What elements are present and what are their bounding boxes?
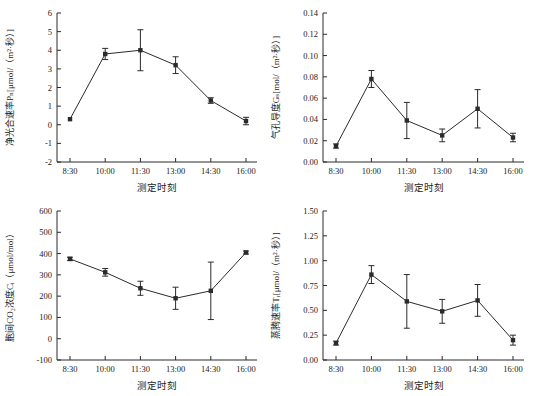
svg-text:16:00: 16:00 bbox=[236, 166, 255, 176]
svg-text:测定时刻: 测定时刻 bbox=[404, 182, 444, 193]
chart-stomatal-conductance: 0.000.020.040.060.080.100.120.148:3010:0… bbox=[266, 0, 533, 198]
svg-text:14:30: 14:30 bbox=[468, 364, 487, 374]
svg-text:10:00: 10:00 bbox=[362, 166, 381, 176]
svg-text:净光合速率Pₙ[μmol/（m²·秒）]: 净光合速率Pₙ[μmol/（m²·秒）] bbox=[4, 29, 15, 146]
svg-text:1.50: 1.50 bbox=[303, 206, 318, 216]
svg-text:2: 2 bbox=[48, 83, 52, 93]
svg-text:0.12: 0.12 bbox=[303, 29, 318, 39]
svg-text:11:30: 11:30 bbox=[131, 364, 150, 374]
svg-text:5: 5 bbox=[48, 27, 52, 37]
chart-transpiration-rate: 0.000.250.500.751.001.251.508:3010:0011:… bbox=[266, 198, 533, 396]
chart-net-photosynthetic-rate: -2-101234568:3010:0011:3013:0014:3016:00… bbox=[0, 0, 266, 198]
svg-text:-1: -1 bbox=[45, 138, 52, 148]
svg-text:0: 0 bbox=[48, 120, 52, 130]
svg-text:8:30: 8:30 bbox=[62, 364, 77, 374]
svg-text:1: 1 bbox=[48, 101, 52, 111]
svg-text:16:00: 16:00 bbox=[503, 166, 522, 176]
svg-text:-100: -100 bbox=[36, 355, 52, 365]
chart-cell-bottom-right: 0.000.250.500.751.001.251.508:3010:0011:… bbox=[266, 198, 533, 396]
svg-text:11:30: 11:30 bbox=[131, 166, 150, 176]
svg-text:0.02: 0.02 bbox=[303, 136, 318, 146]
svg-text:8:30: 8:30 bbox=[62, 166, 77, 176]
svg-text:0.14: 0.14 bbox=[303, 8, 319, 18]
svg-text:300: 300 bbox=[39, 270, 52, 280]
svg-text:8:30: 8:30 bbox=[328, 166, 343, 176]
svg-text:13:00: 13:00 bbox=[166, 166, 185, 176]
svg-text:胞间CO₂浓度Cᵢ（μmol/mol）: 胞间CO₂浓度Cᵢ（μmol/mol） bbox=[4, 229, 15, 341]
svg-text:0.08: 0.08 bbox=[303, 72, 318, 82]
figure-grid: -2-101234568:3010:0011:3013:0014:3016:00… bbox=[0, 0, 533, 396]
svg-text:10:00: 10:00 bbox=[362, 364, 381, 374]
svg-text:0.06: 0.06 bbox=[303, 93, 318, 103]
svg-text:-2: -2 bbox=[45, 157, 52, 167]
svg-text:0.25: 0.25 bbox=[303, 330, 318, 340]
svg-text:蒸腾速率Tᵣ[μmol/（m²·秒）]: 蒸腾速率Tᵣ[μmol/（m²·秒）] bbox=[270, 232, 281, 339]
svg-text:气孔导度Gₛ[mol/（m²·秒）]: 气孔导度Gₛ[mol/（m²·秒）] bbox=[270, 36, 281, 140]
svg-text:11:30: 11:30 bbox=[397, 364, 416, 374]
chart-cell-top-right: 0.000.020.040.060.080.100.120.148:3010:0… bbox=[266, 0, 533, 198]
svg-text:0.04: 0.04 bbox=[303, 114, 319, 124]
svg-text:0.10: 0.10 bbox=[303, 51, 318, 61]
svg-text:400: 400 bbox=[39, 249, 52, 259]
svg-text:14:30: 14:30 bbox=[201, 166, 220, 176]
svg-text:1.25: 1.25 bbox=[303, 231, 318, 241]
svg-text:测定时刻: 测定时刻 bbox=[137, 182, 177, 193]
svg-text:600: 600 bbox=[39, 206, 52, 216]
svg-text:3: 3 bbox=[48, 64, 52, 74]
svg-text:0: 0 bbox=[48, 334, 52, 344]
svg-text:0.75: 0.75 bbox=[303, 281, 318, 291]
svg-text:500: 500 bbox=[39, 227, 52, 237]
svg-text:4: 4 bbox=[48, 45, 53, 55]
svg-text:1.00: 1.00 bbox=[303, 256, 318, 266]
svg-text:10:00: 10:00 bbox=[96, 364, 115, 374]
svg-text:6: 6 bbox=[48, 8, 52, 18]
svg-text:测定时刻: 测定时刻 bbox=[404, 380, 444, 391]
svg-text:13:00: 13:00 bbox=[433, 364, 452, 374]
svg-text:14:30: 14:30 bbox=[468, 166, 487, 176]
svg-text:11:30: 11:30 bbox=[397, 166, 416, 176]
svg-text:200: 200 bbox=[39, 291, 52, 301]
chart-cell-top-left: -2-101234568:3010:0011:3013:0014:3016:00… bbox=[0, 0, 266, 198]
svg-text:16:00: 16:00 bbox=[236, 364, 255, 374]
svg-text:8:30: 8:30 bbox=[328, 364, 343, 374]
chart-intercellular-co2-concentration: -10001002003004005006008:3010:0011:3013:… bbox=[0, 198, 266, 396]
chart-cell-bottom-left: -10001002003004005006008:3010:0011:3013:… bbox=[0, 198, 266, 396]
svg-text:100: 100 bbox=[39, 312, 52, 322]
svg-text:16:00: 16:00 bbox=[503, 364, 522, 374]
svg-text:0.00: 0.00 bbox=[303, 355, 318, 365]
svg-text:测定时刻: 测定时刻 bbox=[137, 380, 177, 391]
svg-text:13:00: 13:00 bbox=[433, 166, 452, 176]
svg-text:0.00: 0.00 bbox=[303, 157, 318, 167]
svg-text:13:00: 13:00 bbox=[166, 364, 185, 374]
svg-text:14:30: 14:30 bbox=[201, 364, 220, 374]
svg-text:0.50: 0.50 bbox=[303, 305, 318, 315]
svg-text:10:00: 10:00 bbox=[96, 166, 115, 176]
